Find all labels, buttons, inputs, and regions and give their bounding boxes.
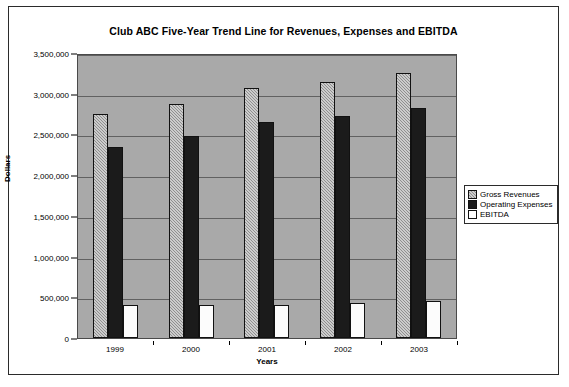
bar — [396, 73, 411, 338]
legend-item: EBITDA — [468, 210, 553, 219]
x-axis-tick-label: 2003 — [381, 341, 457, 357]
y-axis-tick-label: 3,500,000 — [33, 50, 69, 59]
y-axis: 0500,0001,000,0001,500,0002,000,0002,500… — [9, 54, 77, 339]
y-axis-tick-label: 1,000,000 — [33, 253, 69, 262]
bar — [169, 104, 184, 338]
bar — [259, 122, 274, 338]
x-axis-tick-label: 2000 — [153, 341, 229, 357]
x-axis-label: Years — [77, 357, 457, 366]
bar — [199, 305, 214, 338]
x-axis-tick-label: 1999 — [77, 341, 153, 357]
legend-item: Operating Expenses — [468, 200, 553, 209]
x-axis-tick-mark — [381, 341, 382, 345]
bar-groups — [78, 55, 456, 338]
legend-label: EBITDA — [480, 210, 509, 219]
x-axis-tick-mark — [457, 341, 458, 345]
x-axis-tick-mark — [305, 341, 306, 345]
bar — [274, 305, 289, 338]
legend-label: Gross Revenues — [480, 190, 540, 199]
x-axis-tick-mark — [153, 341, 154, 345]
x-axis-tick-label: 2001 — [229, 341, 305, 357]
bar — [350, 303, 365, 338]
bar — [93, 114, 108, 338]
bar — [320, 82, 335, 339]
y-axis-tick-label: 2,500,000 — [33, 131, 69, 140]
bar-group — [78, 55, 154, 338]
chart-legend: Gross RevenuesOperating ExpensesEBITDA — [464, 185, 558, 224]
legend-swatch-icon — [468, 210, 477, 219]
bar — [426, 301, 441, 338]
legend-item: Gross Revenues — [468, 190, 553, 199]
bar — [411, 108, 426, 338]
y-axis-tick-label: 3,000,000 — [33, 90, 69, 99]
legend-label: Operating Expenses — [480, 200, 553, 209]
y-axis-tick-label: 0 — [65, 335, 69, 344]
chart-frame: Club ABC Five-Year Trend Line for Revenu… — [8, 6, 559, 375]
bar-group — [229, 55, 305, 338]
bar-group — [154, 55, 230, 338]
y-axis-tick-label: 500,000 — [40, 294, 69, 303]
bar-group — [380, 55, 456, 338]
bar — [108, 147, 123, 338]
chart-title: Club ABC Five-Year Trend Line for Revenu… — [9, 25, 558, 37]
legend-swatch-icon — [468, 200, 477, 209]
x-axis-tick-label: 2002 — [305, 341, 381, 357]
bar — [335, 116, 350, 338]
plot-area — [77, 54, 457, 339]
y-axis-tick-label: 1,500,000 — [33, 212, 69, 221]
bar — [184, 136, 199, 338]
bar — [123, 305, 138, 338]
y-axis-label: Dollars — [3, 155, 12, 182]
legend-swatch-icon — [468, 190, 477, 199]
x-axis: 19992000200120022003 — [77, 341, 457, 357]
bar-group — [305, 55, 381, 338]
y-axis-tick-label: 2,000,000 — [33, 172, 69, 181]
x-axis-tick-mark — [229, 341, 230, 345]
bar — [244, 88, 259, 338]
